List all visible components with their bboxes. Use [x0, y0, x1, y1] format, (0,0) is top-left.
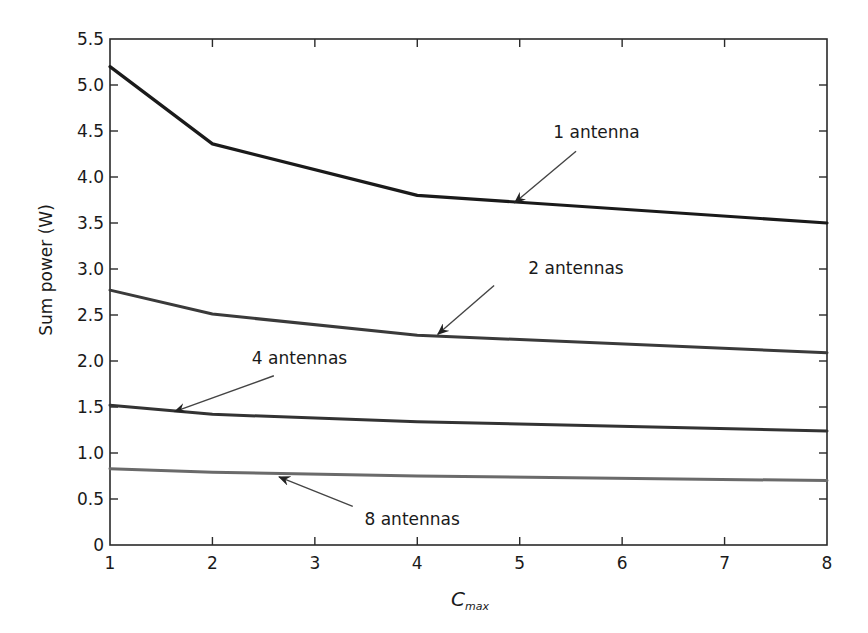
y-tick-label: 3.0	[77, 259, 104, 279]
series-line-1	[110, 67, 827, 223]
y-tick-label: 2.5	[77, 305, 104, 325]
y-tick-label: 0	[93, 535, 104, 555]
line-chart: 12345678 00.51.01.52.02.53.03.54.04.55.0…	[0, 0, 868, 633]
annotation-arrow	[279, 477, 353, 506]
series-lines	[110, 67, 827, 481]
annotations: 1 antenna2 antennas4 antennas8 antennas	[175, 122, 640, 528]
y-tick-label: 5.5	[77, 29, 104, 49]
annotation-arrow	[175, 376, 274, 412]
x-tick-label: 3	[309, 553, 320, 573]
annotation-label: 1 antenna	[553, 122, 640, 142]
series-line-2	[110, 290, 827, 353]
x-axis-label-subscript: max	[465, 600, 489, 613]
x-axis-label: Cmax	[451, 587, 489, 613]
x-tick-label: 2	[207, 553, 218, 573]
y-axis-label: Sum power (W)	[36, 204, 56, 336]
y-tick-label: 2.0	[77, 351, 104, 371]
x-axis-label-main: C	[451, 587, 465, 611]
annotation-label: 8 antennas	[364, 509, 460, 529]
x-tick-label: 7	[719, 553, 730, 573]
annotation-arrow	[438, 286, 494, 335]
y-tick-label: 1.0	[77, 443, 104, 463]
x-tick-label: 5	[514, 553, 525, 573]
annotation-label: 2 antennas	[528, 258, 624, 278]
x-axis: 12345678	[105, 39, 833, 573]
x-tick-label: 1	[105, 553, 116, 573]
plot-border	[110, 39, 827, 545]
y-tick-label: 5.0	[77, 75, 104, 95]
series-line-4	[110, 469, 827, 481]
annotation-arrow	[515, 151, 576, 203]
y-tick-label: 4.5	[77, 121, 104, 141]
y-tick-label: 1.5	[77, 397, 104, 417]
y-tick-label: 4.0	[77, 167, 104, 187]
plot-frame	[110, 39, 827, 545]
y-tick-label: 0.5	[77, 489, 104, 509]
x-tick-label: 4	[412, 553, 423, 573]
x-tick-label: 8	[822, 553, 833, 573]
x-tick-label: 6	[617, 553, 628, 573]
series-line-3	[110, 405, 827, 431]
y-tick-label: 3.5	[77, 213, 104, 233]
annotation-label: 4 antennas	[252, 348, 348, 368]
